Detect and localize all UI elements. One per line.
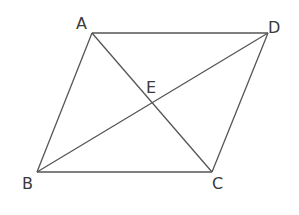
- label-point-b: B: [22, 176, 33, 192]
- label-point-a: A: [76, 16, 87, 32]
- segment-ba: [37, 33, 92, 172]
- segment-dc: [212, 33, 268, 172]
- figure-canvas: [0, 0, 299, 215]
- geometry-diagram: A D B C E: [0, 0, 299, 215]
- label-point-e: E: [146, 80, 156, 96]
- label-point-d: D: [268, 20, 280, 36]
- segment-bd: [37, 33, 268, 172]
- label-point-c: C: [212, 176, 223, 192]
